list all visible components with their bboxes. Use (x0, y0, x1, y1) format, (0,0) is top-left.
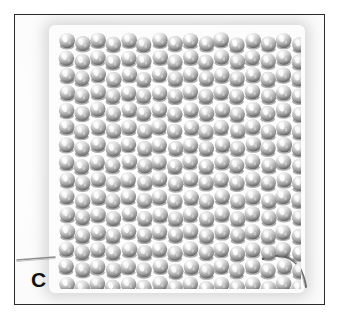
figure-panel: C (0, 0, 343, 318)
panel-label: C (31, 269, 46, 290)
bead-weave-specimen (53, 27, 301, 289)
panel-frame-border: C (14, 14, 325, 305)
bead-grid-canvas (53, 27, 301, 289)
specimen-photograph (15, 15, 324, 304)
